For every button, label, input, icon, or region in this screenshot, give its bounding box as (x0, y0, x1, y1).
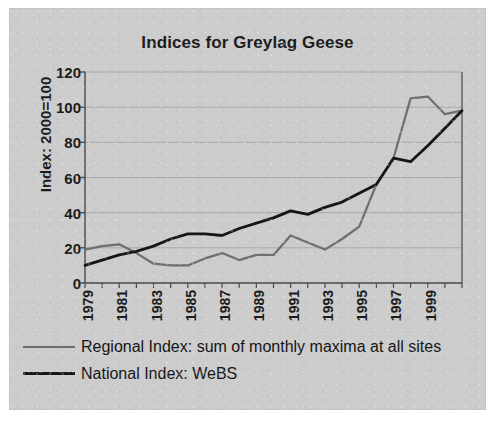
legend-item: Regional Index: sum of monthly maxima at… (23, 333, 483, 360)
x-tick-label: 1997 (388, 290, 404, 321)
x-tick-label: 1983 (149, 290, 165, 321)
x-tick-label: 1999 (423, 290, 439, 321)
x-tick-label: 1985 (183, 290, 199, 321)
figure: Indices for Greylag Geese Index: 2000=10… (0, 0, 499, 427)
x-tick-label: 1991 (286, 290, 302, 321)
chart-legend: Regional Index: sum of monthly maxima at… (23, 333, 483, 387)
x-tick-label: 1987 (217, 290, 233, 321)
x-tick-label: 1981 (114, 290, 130, 321)
legend-label: Regional Index: sum of monthly maxima at… (81, 338, 441, 356)
legend-label: National Index: WeBS (81, 365, 237, 383)
legend-line-swatch (23, 372, 75, 375)
legend-line-swatch (23, 346, 75, 348)
x-tick-label: 1993 (320, 290, 336, 321)
series-line (85, 97, 462, 266)
legend-item: National Index: WeBS (23, 360, 483, 387)
chart-plate: Indices for Greylag Geese Index: 2000=10… (9, 8, 486, 410)
x-tick-label: 1995 (354, 290, 370, 321)
x-tick-label: 1989 (251, 290, 267, 321)
x-tick-label: 1979 (80, 290, 96, 321)
series-line (85, 111, 462, 266)
